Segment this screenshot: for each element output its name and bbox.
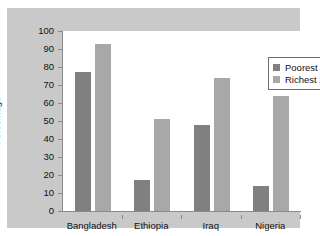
bar-group <box>182 31 242 211</box>
legend-item: Poorest 20% <box>273 62 307 73</box>
x-tick-label: Nigeria <box>255 220 285 231</box>
bar <box>75 72 91 211</box>
bar <box>154 119 170 211</box>
legend-label: Poorest 20% <box>285 63 307 73</box>
x-tick-mark <box>300 215 301 219</box>
chart-panel: Percentage 1009080706050403020100 Poores… <box>7 8 300 228</box>
y-tick-label: 30 <box>30 152 54 162</box>
bar-group <box>123 31 183 211</box>
y-tick-label: 60 <box>30 98 54 108</box>
y-tick-label: 0 <box>30 206 54 216</box>
legend-swatch-icon <box>273 64 280 71</box>
y-tick-label: 10 <box>30 188 54 198</box>
y-tick-label: 80 <box>30 62 54 72</box>
y-tick-label: 90 <box>30 44 54 54</box>
bar-group <box>63 31 123 211</box>
plot-area: Poorest 20%Richest 20% <box>62 31 301 212</box>
x-tick-mark <box>241 215 242 219</box>
y-tick-label: 20 <box>30 170 54 180</box>
y-axis-ticks: 1009080706050403020100 <box>31 31 62 212</box>
x-tick-label: Ethiopia <box>134 220 168 231</box>
bar <box>95 44 111 211</box>
x-axis-labels: BangladeshEthiopiaIraqNigeria <box>62 215 301 233</box>
bar <box>253 186 269 211</box>
bar <box>273 96 289 211</box>
y-tick-label: 40 <box>30 134 54 144</box>
chart-legend: Poorest 20%Richest 20% <box>268 57 307 90</box>
bar <box>134 180 150 211</box>
x-tick-mark <box>181 215 182 219</box>
y-axis-title: Percentage <box>0 66 2 176</box>
x-tick-label: Iraq <box>203 220 219 231</box>
y-tick-label: 70 <box>30 80 54 90</box>
y-tick-label: 50 <box>30 116 54 126</box>
bar <box>214 78 230 211</box>
legend-swatch-icon <box>273 76 280 83</box>
chart-figure: Percentage 1009080706050403020100 Poores… <box>0 0 307 236</box>
y-tick-label: 100 <box>30 26 54 36</box>
legend-item: Richest 20% <box>273 74 307 85</box>
x-tick-label: Bangladesh <box>67 220 117 231</box>
bar <box>194 125 210 211</box>
legend-label: Richest 20% <box>285 75 307 85</box>
x-tick-mark <box>122 215 123 219</box>
